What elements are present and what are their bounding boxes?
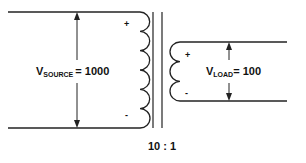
secondary-coil	[170, 42, 180, 101]
secondary-minus-sign: -	[185, 88, 188, 98]
load-arrowhead-down	[226, 93, 232, 101]
source-arrowhead-down	[74, 120, 80, 128]
source-arrowhead-up	[74, 12, 80, 20]
load-voltage-label: VLOAD= 100	[206, 65, 261, 78]
load-arrowhead-up	[226, 42, 232, 50]
transformer-diagram: VSOURCE= 1000 VLOAD= 100 + - + - 10 : 1	[0, 0, 306, 163]
source-voltage-label: VSOURCE= 1000	[36, 65, 109, 78]
primary-minus-sign: -	[125, 110, 128, 120]
turns-ratio-label: 10 : 1	[148, 140, 176, 152]
primary-plus-sign: +	[124, 19, 129, 29]
primary-coil	[140, 12, 150, 128]
secondary-plus-sign: +	[185, 50, 190, 60]
